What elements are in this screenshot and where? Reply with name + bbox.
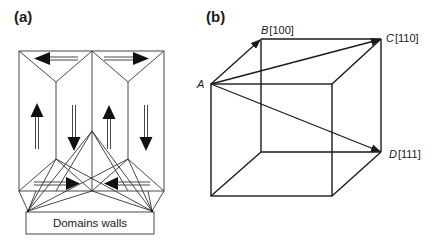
magnetization-arrow-up bbox=[103, 105, 116, 149]
magnetization-arrow-left bbox=[104, 177, 150, 190]
bottom-left-closure-domain bbox=[19, 159, 92, 191]
bottom-right-closure-domain bbox=[92, 159, 164, 191]
cube-edge bbox=[211, 152, 261, 196]
domain-walls-label: Domains walls bbox=[53, 217, 127, 229]
vertex-c-label: C[110] bbox=[386, 32, 419, 44]
magnetization-arrow-left bbox=[34, 52, 78, 65]
wall-pointer bbox=[28, 131, 92, 211]
vertex-b-label: B[100] bbox=[261, 24, 294, 36]
wall-pointer bbox=[92, 191, 152, 211]
cube-edge bbox=[332, 152, 381, 196]
figure-canvas: (a) bbox=[0, 0, 436, 245]
wall-pointer bbox=[152, 191, 164, 211]
vertex-d-label: D[111] bbox=[389, 148, 421, 160]
top-left-closure-domain bbox=[19, 51, 92, 82]
magnetization-arrow-down bbox=[68, 105, 81, 151]
magnetization-arrow-right bbox=[104, 52, 149, 65]
top-right-closure-domain bbox=[92, 51, 164, 82]
magnetization-arrow-up bbox=[31, 103, 44, 149]
panel-a: (a) bbox=[14, 8, 164, 234]
panel-a-label: (a) bbox=[14, 8, 32, 25]
panel-b: (b) A B[100] C[110] D[111] bbox=[196, 8, 421, 196]
vertex-a-label: A bbox=[196, 78, 204, 90]
vector-a-to-d bbox=[211, 84, 380, 152]
wall-pointer bbox=[28, 191, 36, 211]
panel-b-label: (b) bbox=[206, 8, 225, 25]
magnetization-arrow-down bbox=[140, 105, 153, 151]
wall-pointer bbox=[19, 191, 28, 211]
crystal-outline bbox=[19, 51, 164, 191]
